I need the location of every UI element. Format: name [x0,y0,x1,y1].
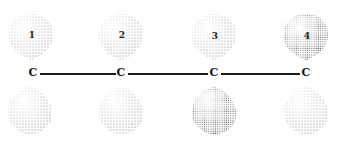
butadiene-orbital-diagram: C C C C 1 2 3 4 [0,0,343,147]
bond-c3-c4 [221,73,300,75]
orbital-number-2: 2 [117,30,127,40]
carbon-atom-2: C [115,66,127,80]
carbon-atom-4: C [300,66,312,80]
orbital-number-3: 3 [210,31,220,41]
p-orbital-lower-lobe-3 [188,84,240,136]
p-orbital-lower-lobe-1 [4,84,56,136]
p-orbital-lower-lobe-2 [95,84,147,136]
p-orbital-lower-lobe-4 [280,84,332,136]
carbon-atom-3: C [208,66,220,80]
orbital-number-4: 4 [302,31,312,41]
orbital-number-1: 1 [27,30,37,40]
carbon-atom-1: C [27,66,39,80]
bond-c2-c3 [128,73,208,75]
bond-c1-c2 [40,73,116,75]
